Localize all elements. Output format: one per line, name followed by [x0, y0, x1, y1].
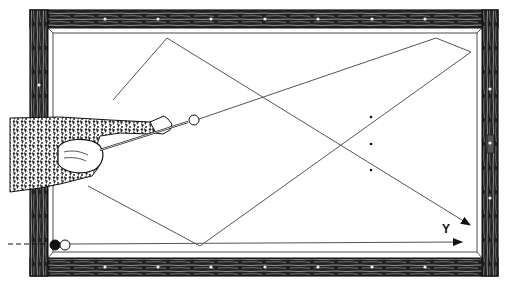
diamond-icon — [209, 265, 212, 268]
diamond-icon — [263, 265, 266, 268]
reference-dot — [370, 143, 373, 146]
diamond-icon — [103, 265, 106, 268]
cue-ball-aim — [189, 115, 199, 125]
label-y: Y — [442, 222, 450, 236]
diamond-icon — [423, 265, 426, 268]
diamond-icon — [103, 17, 106, 20]
diamond-icon — [488, 87, 491, 90]
diamond-icon — [423, 17, 426, 20]
diamond-icon — [370, 17, 373, 20]
diamond-icon — [316, 17, 319, 20]
reference-dot — [370, 116, 373, 119]
reference-dot — [370, 169, 373, 172]
diamond-icon — [370, 265, 373, 268]
diamond-icon — [209, 17, 212, 20]
grip-hand — [58, 139, 103, 172]
diamond-icon — [263, 17, 266, 20]
table-frame — [30, 10, 498, 276]
table-illustration — [0, 0, 508, 284]
diamond-icon — [156, 265, 159, 268]
billiard-diagram: Y — [0, 0, 508, 284]
black-ball — [50, 240, 60, 250]
diamond-icon — [488, 141, 491, 144]
white-ball — [60, 240, 70, 250]
diamond-icon — [316, 265, 319, 268]
diamond-icon — [37, 83, 40, 86]
diamond-icon — [488, 196, 491, 199]
diamond-icon — [156, 17, 159, 20]
cushion-edge — [48, 28, 482, 258]
